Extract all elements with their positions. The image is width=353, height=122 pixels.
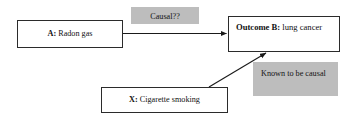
node-confounder-x-text: X: Cigarette smoking bbox=[102, 95, 227, 105]
annotation-known-causal: Known to be causal bbox=[253, 62, 338, 96]
node-outcome-b-key: Outcome B: bbox=[236, 22, 280, 32]
annotation-causal-question: Causal?? bbox=[131, 7, 199, 24]
node-exposure-a-key: A: bbox=[47, 29, 56, 38]
node-exposure-a: A: Radon gas bbox=[17, 20, 123, 48]
node-exposure-a-text: A: Radon gas bbox=[18, 29, 122, 39]
node-outcome-b-text: Outcome B: lung cancer bbox=[229, 22, 339, 34]
annotation-known-causal-text: Known to be causal bbox=[261, 68, 334, 79]
node-exposure-a-label: Radon gas bbox=[56, 29, 92, 38]
node-confounder-x: X: Cigarette smoking bbox=[101, 87, 228, 113]
node-confounder-x-label: Cigarette smoking bbox=[138, 95, 200, 104]
node-confounder-x-key: X: bbox=[129, 95, 138, 104]
node-outcome-b: Outcome B: lung cancer bbox=[228, 16, 340, 52]
annotation-causal-question-text: Causal?? bbox=[131, 11, 199, 20]
node-outcome-b-label: lung cancer bbox=[280, 22, 322, 32]
causal-diagram: A: Radon gas Outcome B: lung cancer X: C… bbox=[0, 0, 353, 122]
